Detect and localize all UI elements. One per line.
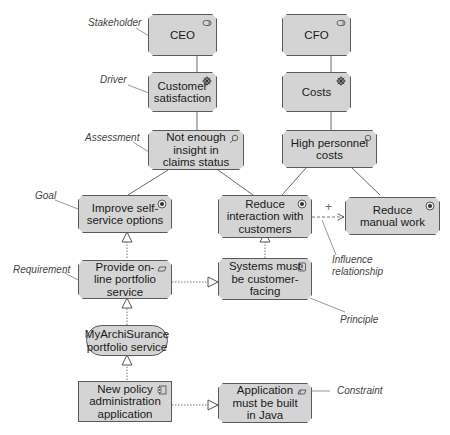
principle-icon <box>297 262 307 272</box>
goal-icon <box>425 201 435 211</box>
annotation-assessment: Assessment <box>85 132 139 144</box>
node-label: High personnel costs <box>291 137 368 162</box>
edge-personnel-reduce-manual <box>352 168 380 195</box>
goal-reduce-interaction[interactable]: Reduce interaction with customers <box>218 195 312 238</box>
goal-reduce-manual-work[interactable]: Reduce manual work <box>345 197 440 235</box>
goal-icon <box>297 199 307 209</box>
node-label: New policy administration application <box>89 383 161 421</box>
node-label: Systems must be customer- facing <box>229 260 301 298</box>
node-label: Application must be built in Java <box>232 384 297 422</box>
annotation-constraint: Constraint <box>337 385 383 397</box>
component-icon <box>157 385 167 395</box>
edge-insight-improve <box>128 170 168 195</box>
annotation-goal: Goal <box>35 190 56 202</box>
driver-icon <box>202 76 212 86</box>
edge-insight-reduce-interaction <box>218 170 253 195</box>
assessment-icon <box>362 134 372 144</box>
node-label: Reduce manual work <box>360 204 425 229</box>
requirement-icon <box>157 264 167 274</box>
annotation-principle: Principle <box>340 314 378 326</box>
service-myarchisurance-portfolio[interactable]: MyArchiSurance portfolio service <box>86 325 168 356</box>
driver-icon <box>336 76 346 86</box>
stakeholder-cfo[interactable]: CFO <box>282 14 351 56</box>
stakeholder-icon <box>202 18 212 28</box>
annotation-driver: Driver <box>100 74 127 86</box>
annotation-stakeholder: Stakeholder <box>88 17 141 29</box>
node-label: Reduce interaction with customers <box>227 198 304 236</box>
goal-icon <box>157 199 167 209</box>
node-label: CFO <box>304 29 328 42</box>
leader-stakeholder <box>136 28 149 36</box>
assessment-high-personnel-costs[interactable]: High personnel costs <box>282 130 377 168</box>
goal-improve-self-service[interactable]: Improve self- service options <box>78 195 172 233</box>
driver-customer-satisfaction[interactable]: Customer satisfaction <box>148 72 217 112</box>
assessment-not-enough-insight[interactable]: Not enough insight in claims status <box>148 130 244 170</box>
influence-plus-sign: + <box>325 201 332 213</box>
annotation-requirement: Requirement <box>13 264 70 276</box>
assessment-icon <box>229 134 239 144</box>
node-label: Not enough insight in claims status <box>163 131 229 169</box>
annotation-influence-relationship: Influence relationship <box>332 254 383 278</box>
leader-driver <box>128 85 149 93</box>
requirement-provide-online-portfolio[interactable]: Provide on- line portfolio service <box>78 260 172 299</box>
stakeholder-icon <box>336 18 346 28</box>
node-label: Improve self- service options <box>87 202 164 227</box>
constraint-icon <box>297 387 307 397</box>
leader-influence <box>322 220 336 255</box>
node-label: Provide on- line portfolio service <box>94 261 156 299</box>
stakeholder-ceo[interactable]: CEO <box>148 14 217 56</box>
leader-goal <box>55 200 78 209</box>
node-label: CEO <box>170 29 195 42</box>
principle-systems-customer-facing[interactable]: Systems must be customer- facing <box>218 258 312 300</box>
node-label: Costs <box>302 86 331 99</box>
edge-personnel-reduce-interaction <box>282 168 306 195</box>
driver-costs[interactable]: Costs <box>282 72 351 112</box>
node-label: MyArchiSurance portfolio service <box>85 328 169 353</box>
leader-principle <box>310 298 345 312</box>
application-new-policy-administration[interactable]: New policy administration application <box>78 381 172 422</box>
constraint-app-built-in-java[interactable]: Application must be built in Java <box>218 383 312 423</box>
